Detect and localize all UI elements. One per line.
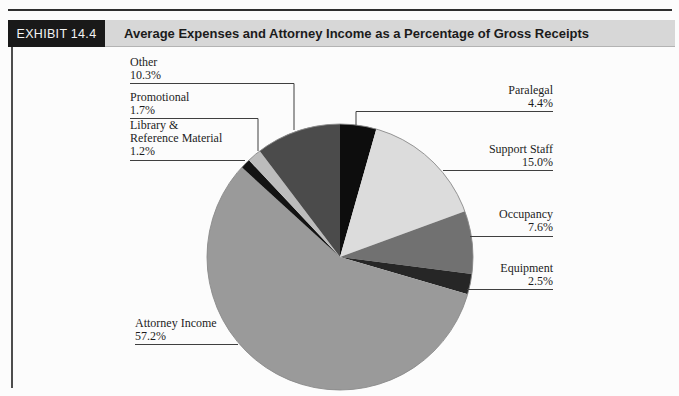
pie-slices (207, 124, 473, 390)
pie-chart (0, 0, 679, 396)
label-pct: 1.2% (130, 145, 222, 158)
label-pct: 15.0% (489, 156, 553, 169)
label-pct: 57.2% (135, 330, 217, 343)
label-library: Library & Reference Material 1.2% (130, 119, 222, 158)
label-occupancy: Occupancy 7.6% (499, 208, 553, 234)
label-pct: 2.5% (500, 275, 553, 288)
label-support-staff: Support Staff 15.0% (489, 143, 553, 169)
exhibit-figure: EXHIBIT 14.4 Average Expenses and Attorn… (0, 0, 679, 396)
leader-line-paralegal (356, 112, 553, 126)
label-pct: 7.6% (499, 221, 553, 234)
label-attorney-income: Attorney Income 57.2% (135, 317, 217, 343)
label-pct: 10.3% (130, 69, 161, 82)
label-equipment: Equipment 2.5% (500, 262, 553, 288)
label-pct: 4.4% (508, 97, 553, 110)
label-other: Other 10.3% (130, 56, 161, 82)
label-promotional: Promotional 1.7% (130, 91, 189, 117)
label-paralegal: Paralegal 4.4% (508, 84, 553, 110)
label-pct: 1.7% (130, 104, 189, 117)
